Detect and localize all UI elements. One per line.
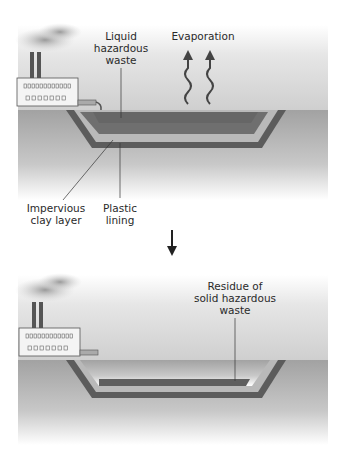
discharge-pipe [78, 100, 96, 105]
label-plastic-lining: Plastic lining [98, 202, 142, 226]
down-arrow-icon [162, 228, 182, 258]
discharge-pipe [80, 350, 98, 355]
factory [19, 328, 80, 356]
smokestack [32, 302, 36, 328]
label-residue-of-solid-hazardous-waste: Residue of solid hazardous waste [190, 280, 280, 316]
label-liquid-hazardous-waste: Liquid hazardous waste [91, 30, 151, 66]
label-evaporation: Evaporation [168, 30, 238, 42]
impoundment-illustration-bottom [0, 255, 345, 453]
smokestack [30, 52, 34, 78]
label-impervious-clay-layer: Impervious clay layer [20, 202, 92, 226]
panel-after-evaporation: Residue of solid hazardous waste [0, 255, 345, 453]
factory [17, 78, 78, 106]
panel-before-evaporation: Liquid hazardous waste Evaporation Imper… [0, 0, 345, 230]
solid-residue [99, 379, 250, 386]
